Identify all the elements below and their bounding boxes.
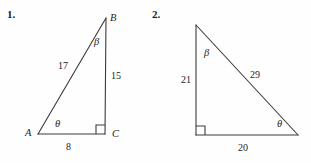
worksheet-page: 1. 2.	[0, 0, 311, 163]
triangle-1-angle-beta: β	[94, 37, 99, 48]
triangle-2-side-hypotenuse-label: 29	[250, 70, 260, 80]
triangle-1-side-hypotenuse-label: 17	[58, 61, 68, 71]
triangle-1-vertex-label-a: A	[25, 128, 31, 139]
triangle-1-side-opposite-label: 15	[111, 71, 121, 81]
triangle-1-vertex-label-b: B	[110, 13, 116, 24]
triangle-2-side-vertical-leg-label: 21	[181, 75, 191, 85]
triangle-2-side-horizontal-leg-label: 20	[238, 143, 248, 153]
triangle-1-side-adjacent-label: 8	[66, 142, 71, 152]
triangle-2-angle-beta: β	[204, 48, 209, 59]
triangle-figures	[0, 0, 311, 163]
triangle-1-vertex-label-c: C	[112, 129, 119, 140]
triangle-2-hypotenuse	[196, 25, 298, 135]
triangle-2-angle-theta: θ	[277, 119, 282, 130]
triangle-1-angle-theta: θ	[55, 119, 60, 130]
triangle-2-right-angle-marker	[196, 126, 205, 135]
triangle-2	[196, 25, 298, 135]
triangle-1-vertical-leg	[105, 18, 106, 134]
triangle-1-right-angle-marker	[96, 125, 105, 134]
figures-svg	[0, 0, 311, 163]
